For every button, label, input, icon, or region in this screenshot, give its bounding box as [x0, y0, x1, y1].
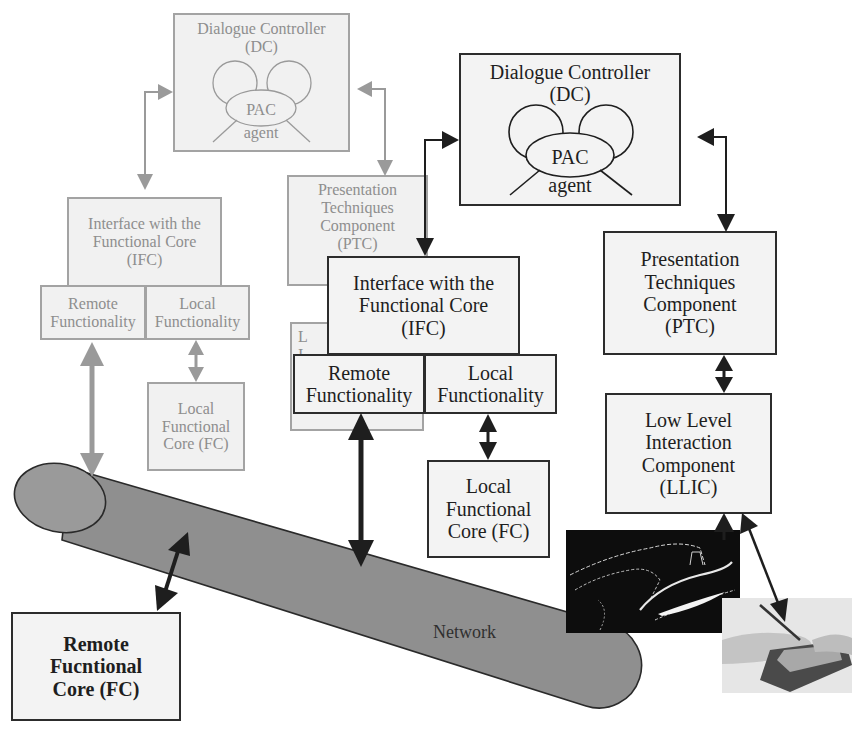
- faded-dc-ptc-arrow: [364, 89, 385, 170]
- faded-dc-ifc-arrow: [145, 92, 167, 184]
- faded-agent-label: agent: [244, 124, 279, 142]
- dc-ptc-arrow: [706, 137, 726, 222]
- architecture-diagram: Dialogue Controller (DC) Presentation Te…: [0, 0, 864, 740]
- llic-pen-arrow: [748, 526, 780, 608]
- dc-ifc-arrow: [425, 140, 450, 245]
- faded-arrows: [80, 81, 393, 477]
- arrows: [155, 128, 788, 622]
- overlay-layer: PAC agent PAC agent: [0, 0, 864, 740]
- faded-pac-label: PAC: [246, 101, 276, 118]
- pac-label: PAC: [551, 146, 588, 168]
- agent-label: agent: [548, 174, 592, 197]
